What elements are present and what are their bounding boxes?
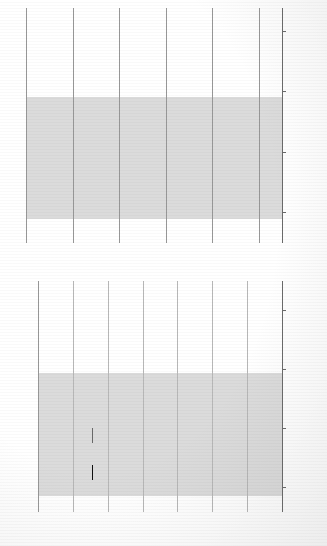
xmark-2009: [282, 369, 286, 370]
bottom-chart-plot-area: [38, 281, 282, 512]
axis-baseline: [282, 8, 283, 243]
gridline-0: [282, 281, 283, 512]
xmark-2010: [282, 31, 286, 32]
top-chart-plot-area: [26, 8, 282, 243]
legend-swatch-auto-abs: [92, 465, 94, 480]
xmark-2008: [282, 152, 286, 153]
xmark-2007: [282, 487, 286, 488]
xmark-2009: [282, 91, 286, 92]
xmark-2010: [282, 310, 286, 311]
xmark-2008: [282, 428, 286, 429]
xmark-2007: [282, 212, 286, 213]
scanned-page: [0, 0, 327, 546]
legend-swatch-credit-card-abs: [92, 428, 93, 443]
top-chart-series-svg: [26, 8, 282, 243]
chart-consumer-abs-spreads: [0, 273, 327, 546]
bottom-chart-series-svg: [38, 281, 282, 512]
chart-bank-lending-standards: [0, 0, 327, 273]
rotated-page-content: [0, 0, 327, 546]
